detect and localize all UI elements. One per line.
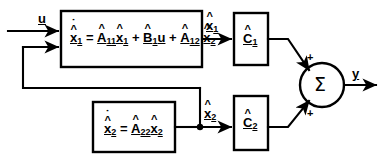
operator-plus-1: + [132, 30, 140, 45]
hat-accent: ^ [182, 23, 188, 34]
label-signal-x2: ^x2 [204, 107, 216, 122]
gain1-label: ^C1 [243, 32, 257, 47]
hat-accent: ^ [116, 23, 122, 34]
hat-accent: ^ [204, 99, 210, 110]
block2-lhs: ˙^x [104, 122, 111, 135]
label-output-y: y [352, 67, 359, 80]
junction-dot-x2 [197, 124, 203, 130]
summer-sign-top: + [307, 52, 313, 63]
block1-lhs: ˙^x [70, 31, 77, 44]
equals-sign: = [120, 121, 128, 136]
label-signal-x1: ^x1 [206, 19, 218, 34]
summer-sign-bottom: + [307, 108, 313, 119]
block-diagram-canvas: u ˙^x1 = ^A11^x1 + ^B1u + ^A12 ^x2 ˙^x2 … [0, 0, 381, 165]
hat-accent: ^ [244, 108, 250, 119]
operator-plus-2: + [169, 30, 177, 45]
wire-gain2-to-summer [268, 101, 309, 127]
hat-accent: ^ [145, 23, 151, 34]
term-u: u [158, 30, 166, 45]
block1-equation: ˙^x1 = ^A11^x1 + ^B1u + ^A12 ^x2 [70, 31, 216, 46]
label-input-u: u [38, 12, 46, 25]
hat-accent: ^ [104, 115, 110, 126]
hat-accent: ^ [99, 23, 105, 34]
term-x2: ^x [151, 122, 158, 135]
term-A12: ^A [180, 31, 189, 44]
hat-accent: ^ [244, 24, 250, 35]
term-x1: ^x [116, 31, 123, 44]
wire-gain1-to-summer [268, 39, 309, 70]
block2-equation: ˙^x2 = ^A22^x2 [104, 122, 163, 137]
hat-accent: ^ [70, 24, 76, 35]
term-A22: ^A [131, 122, 140, 135]
summer-symbol: Σ [314, 75, 326, 94]
hat-accent: ^ [151, 114, 157, 125]
term-A11: ^A [97, 31, 106, 44]
hat-accent: ^ [206, 11, 212, 22]
equals-sign: = [86, 30, 94, 45]
hat-accent: ^ [133, 114, 139, 125]
term-B1: ^B [143, 31, 152, 44]
gain2-label: ^C2 [243, 116, 257, 131]
